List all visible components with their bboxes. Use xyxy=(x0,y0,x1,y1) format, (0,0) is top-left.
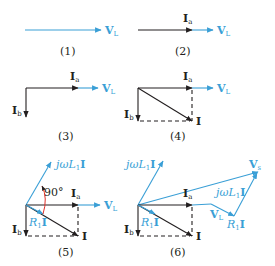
panel-5: jωL1I 90° Ia VL R1I Ib I (5) xyxy=(12,158,118,259)
vl-label: VL xyxy=(103,199,118,213)
ib-label: Ib xyxy=(124,108,134,122)
ia-label: Ia xyxy=(70,70,79,84)
jwl-label: jωL1I xyxy=(123,158,155,172)
angle-label: 90° xyxy=(44,186,64,199)
i-phasor xyxy=(138,88,192,121)
ia-label: Ia xyxy=(183,187,192,201)
panel-caption: (6) xyxy=(170,246,186,259)
jwl-shifted-label: jωL1I xyxy=(213,186,245,200)
ia-label: Ia xyxy=(183,70,192,84)
panel-caption: (4) xyxy=(170,130,186,143)
r1i-phasor xyxy=(138,205,155,214)
vl-phasor xyxy=(192,204,211,205)
r1i-label: R1I xyxy=(140,216,159,230)
panel-6: jωL1I Vs jωL1I Ia VL R1I R1I Ib I (6) xyxy=(123,158,262,259)
panel-4: Ia VL Ib I (4) xyxy=(124,70,231,143)
ib-label: Ib xyxy=(12,223,22,237)
phasor-diagram-figure: VL (1) Ia VL (2) Ia VL Ib (3) Ia VL Ib I… xyxy=(0,0,275,266)
vl-label: VL xyxy=(209,208,224,222)
vl-label: VL xyxy=(216,24,231,38)
vs-label: Vs xyxy=(248,158,262,172)
i-label: I xyxy=(82,230,87,243)
ib-label: Ib xyxy=(124,223,134,237)
r1i-phasor xyxy=(26,205,43,214)
vl-label: VL xyxy=(101,82,116,96)
panel-2: Ia VL (2) xyxy=(138,12,231,58)
panel-3: Ia VL Ib (3) xyxy=(12,70,116,143)
ia-label: Ia xyxy=(71,187,80,201)
vl-label: VL xyxy=(216,82,231,96)
vl-label: VL xyxy=(104,24,119,38)
i-label: I xyxy=(196,230,201,243)
panel-caption: (3) xyxy=(58,130,74,143)
panel-caption: (1) xyxy=(60,45,76,58)
r1i-shifted-label: R1I xyxy=(226,218,245,232)
panel-caption: (2) xyxy=(175,45,191,58)
panel-1: VL (1) xyxy=(25,24,119,58)
jwl-label: jωL1I xyxy=(53,158,85,172)
r1i-label: R1I xyxy=(28,216,47,230)
i-label: I xyxy=(196,115,201,128)
ib-label: Ib xyxy=(12,104,22,118)
ia-label: Ia xyxy=(183,12,192,26)
panel-caption: (5) xyxy=(58,246,74,259)
